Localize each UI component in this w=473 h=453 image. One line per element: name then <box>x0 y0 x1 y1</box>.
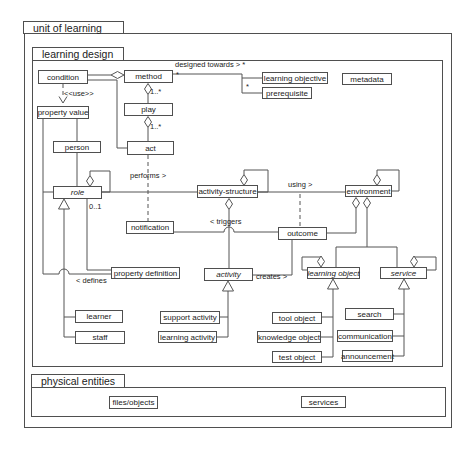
edge-notification-outcome-triggers <box>174 227 278 232</box>
edge-label-mult-play-act: 1..* <box>150 123 161 131</box>
aggregation-diamond-structure-activity <box>226 199 233 210</box>
generalization-triangle-role <box>59 199 70 209</box>
edge-environment-outcome-aggregation <box>327 209 356 234</box>
node-learning-activity: learning activity <box>158 331 217 343</box>
edge-label-designed-towards: designed towards > * <box>175 61 245 69</box>
edge-label-mult-method-end: * <box>176 71 179 79</box>
edge-label-mult-method-play: 1..* <box>150 88 161 96</box>
node-condition: condition <box>38 70 88 84</box>
aggregation-diamond-environment-outcome <box>353 198 360 209</box>
node-notification: notification <box>126 221 174 234</box>
edge-environment-objects-branch <box>336 209 397 268</box>
edge-learning-object-generalization-trunk <box>321 289 333 357</box>
node-act: act <box>127 141 174 155</box>
node-learning-objective: learning objective <box>262 72 328 84</box>
aggregation-diamond-role-self <box>87 176 94 187</box>
node-person: person <box>53 141 101 153</box>
aggregation-diamond-environment-objects <box>364 198 371 209</box>
edge-service-generalization-trunk <box>393 289 404 356</box>
edge-activity-creates-outcome <box>253 240 292 275</box>
node-files-objects: files/objects <box>109 396 158 409</box>
node-prerequisite: prerequisite <box>262 87 312 99</box>
edge-label-using: using > <box>288 181 312 189</box>
aggregation-diamond-environment-self <box>374 175 381 186</box>
generalization-triangle-activity <box>223 281 234 291</box>
node-knowledge-object: knowledge object <box>257 331 321 343</box>
node-staff: staff <box>75 331 125 344</box>
edge-label-mult-prereq-end: * <box>246 83 249 91</box>
aggregation-diamond-structure-self <box>241 175 248 186</box>
node-outcome: outcome <box>278 227 327 240</box>
node-activity-structure: activity-structure <box>197 185 258 198</box>
aggregation-diamond-service-self <box>411 256 418 267</box>
generalization-triangle-service <box>399 279 410 289</box>
node-support-activity: support activity <box>160 311 220 324</box>
node-method: method <box>124 70 173 83</box>
node-tool-object: tool object <box>272 312 322 324</box>
uml-class-diagram: unit of learninglearning designphysical … <box>0 0 473 453</box>
node-learner: learner <box>75 310 123 323</box>
node-communication: communication <box>337 330 393 342</box>
edge-label-use-stereotype: <<use>> <box>64 90 94 98</box>
node-test-object: test object <box>272 351 322 363</box>
edge-label-performs: performs > <box>130 172 166 180</box>
node-property-value: property value <box>37 106 89 119</box>
node-role: role <box>53 186 102 199</box>
edge-label-creates: creates > <box>256 273 287 281</box>
edge-role-generalization-trunk <box>64 209 75 337</box>
node-environment: environment <box>345 185 392 197</box>
node-metadata: metadata <box>342 73 392 85</box>
node-play: play <box>124 103 173 116</box>
node-service: service <box>380 267 427 279</box>
aggregation-diamond-learning-object-self <box>318 256 325 267</box>
node-services: services <box>301 396 346 408</box>
node-search: search <box>345 308 394 320</box>
node-activity: activity <box>204 268 253 281</box>
node-announcement: announcement <box>342 350 393 362</box>
node-learning-object: learning object <box>307 267 360 279</box>
edge-label-mult-role-propdef: 0..1 <box>89 203 102 211</box>
edge-label-triggers: < triggers <box>210 218 241 226</box>
generalization-triangle-learning-object <box>328 279 339 289</box>
aggregation-diamond-method-left <box>111 72 124 79</box>
edge-label-defines: < defines <box>76 277 107 285</box>
node-property-definition: property definition <box>111 267 180 279</box>
